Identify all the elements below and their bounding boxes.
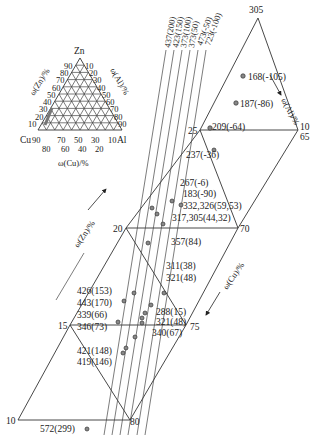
main-diagram: 437(200) 423(150) 373(100) 373(50) 473(-… (6, 5, 310, 435)
inset-ternary: Zn Cu Al 90 80 70 60 50 40 30 20 10 10 2… (20, 46, 132, 168)
svg-text:20: 20 (95, 144, 104, 154)
svg-text:80: 80 (42, 144, 51, 154)
inset-apex-al: Al (117, 135, 127, 145)
svg-text:183(-90): 183(-90) (183, 189, 216, 200)
cu-axis-label: ω(Cu)/% (220, 260, 246, 291)
svg-text:90: 90 (118, 119, 127, 129)
svg-text:321(48): 321(48) (166, 273, 196, 284)
svg-text:60: 60 (61, 144, 70, 154)
svg-text:10: 10 (108, 135, 117, 145)
svg-text:572(299): 572(299) (40, 424, 75, 435)
svg-text:311(38): 311(38) (166, 261, 196, 272)
svg-text:70: 70 (240, 224, 250, 234)
svg-text:10: 10 (6, 416, 16, 426)
svg-text:321(48): 321(48) (156, 317, 186, 328)
svg-text:426(153): 426(153) (77, 286, 112, 297)
inset-apex-cu: Cu (20, 135, 31, 145)
svg-text:80: 80 (130, 417, 140, 427)
zn-arrow-icon (88, 189, 106, 210)
svg-text:346(73): 346(73) (77, 322, 107, 333)
ternary-diagram: Zn Cu Al 90 80 70 60 50 40 30 20 10 10 2… (0, 0, 311, 446)
inset-al-axis-label: ω(Al)/% (108, 66, 131, 96)
svg-text:305: 305 (249, 5, 264, 15)
svg-text:340(67): 340(67) (152, 328, 182, 339)
inset-apex-zn: Zn (74, 46, 85, 56)
svg-text:40: 40 (78, 144, 87, 154)
svg-text:339(66): 339(66) (77, 310, 107, 321)
svg-text:357(84): 357(84) (171, 237, 201, 248)
svg-text:237(-36): 237(-36) (186, 150, 219, 161)
inset-cu-axis-label: ω(Cu)/% (58, 158, 89, 168)
zn-axis-label: ω(Zn)/% (71, 219, 96, 249)
inset-bottom-ticks: 90 70 50 30 10 80 60 40 20 (32, 135, 117, 154)
point-labels: 168(-105) 187(-86) 209(-64) 237(-36) 267… (40, 72, 286, 435)
svg-text:443(170): 443(170) (77, 298, 112, 309)
cu-arrow-icon (206, 292, 220, 315)
svg-text:65: 65 (300, 132, 310, 142)
svg-text:267(-6): 267(-6) (180, 178, 209, 189)
svg-text:209(-64): 209(-64) (212, 122, 245, 133)
svg-text:332,326(59,53): 332,326(59,53) (183, 201, 242, 212)
svg-text:15: 15 (58, 321, 68, 331)
svg-text:168(-105): 168(-105) (248, 72, 286, 83)
svg-text:90: 90 (32, 135, 41, 145)
svg-text:10: 10 (300, 122, 310, 132)
svg-text:25: 25 (188, 126, 198, 136)
svg-text:317,305(44,32): 317,305(44,32) (172, 213, 231, 224)
svg-text:20: 20 (113, 224, 123, 234)
svg-text:75: 75 (190, 322, 200, 332)
al-axis-label: ω(Al)/% (279, 96, 302, 126)
svg-text:10: 10 (28, 119, 37, 129)
svg-text:421(148): 421(148) (77, 346, 112, 357)
svg-text:419(146): 419(146) (77, 357, 112, 368)
svg-text:187(-86): 187(-86) (240, 99, 273, 110)
isotherm-labels: 437(200) 423(150) 373(100) 373(50) 473(-… (162, 11, 223, 48)
